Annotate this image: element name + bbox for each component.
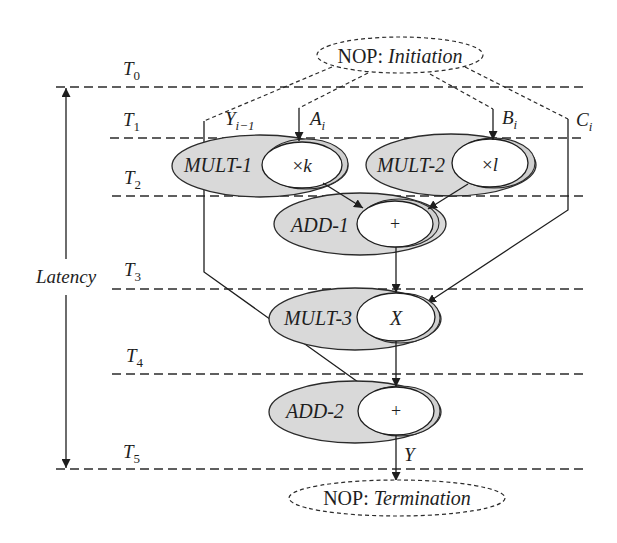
time-label-t3: T3 (124, 259, 141, 284)
operation-label: X (389, 307, 403, 329)
node-mult-2: MULT-2 ×l (366, 134, 536, 196)
input-label-a: Ai (308, 108, 326, 133)
operation-label: ×l (482, 154, 498, 175)
unit-label: MULT-1 (183, 154, 252, 176)
node-add-1: ADD-1 + (274, 193, 446, 255)
nop-initiation-node: NOP:Initiation (317, 37, 483, 73)
scheduling-diagram: T0 T1 T2 T3 T4 T5 Latency NOP:Initiation… (0, 0, 617, 543)
unit-label: ADD-2 (284, 400, 344, 422)
nop-termination-node: NOP:Termination (289, 480, 505, 516)
time-label-t4: T4 (126, 345, 144, 370)
output-label-y: Y (404, 444, 417, 465)
input-label-y-prev: Yi−1 (225, 108, 254, 133)
time-label-t1: T1 (123, 109, 140, 134)
node-mult-1: MULT-1 ×k (172, 135, 348, 197)
node-mult-3: MULT-3 X (269, 288, 441, 350)
unit-label: MULT-2 (376, 154, 445, 176)
operation-label: ×k (292, 155, 312, 176)
input-label-b: Bi (502, 107, 518, 132)
operation-label: + (390, 214, 400, 234)
latency-label: Latency (35, 266, 97, 287)
connector-to-a (299, 73, 368, 108)
time-step-labels: T0 T1 T2 T3 T4 T5 (123, 58, 144, 466)
connector-to-b (430, 74, 493, 109)
operation-label: + (391, 401, 401, 421)
latency-indicator: Latency (35, 88, 97, 468)
connector-to-c (465, 67, 568, 119)
time-label-t2: T2 (124, 167, 141, 192)
input-label-c: Ci (576, 109, 593, 134)
input-labels: Yi−1 Ai Bi Ci (225, 107, 593, 134)
unit-label: MULT-3 (283, 307, 352, 329)
time-label-t5: T5 (123, 441, 140, 466)
node-add-2: ADD-2 + (269, 381, 441, 443)
nop-initiation-label: NOP:Initiation (337, 45, 462, 67)
nop-termination-label: NOP:Termination (323, 487, 471, 509)
time-label-t0: T0 (123, 58, 140, 83)
unit-label: ADD-1 (289, 214, 349, 236)
